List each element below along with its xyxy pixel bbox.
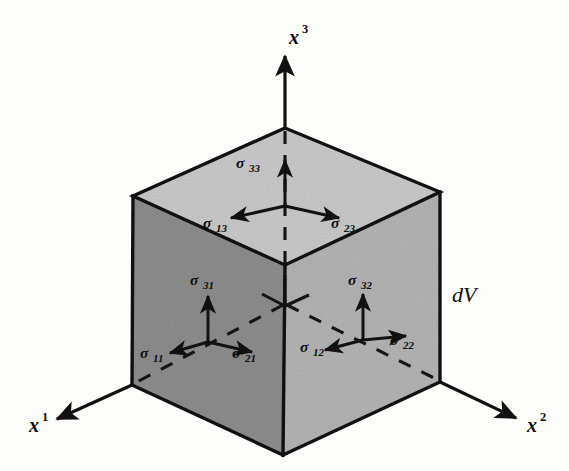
axis-x1-line (57, 385, 132, 419)
sigma-31-label: σ (190, 271, 199, 288)
sigma-11-label: σ (140, 344, 149, 361)
axis-x2-label: x (526, 414, 537, 436)
axis-x2-line (440, 382, 516, 418)
sigma-33-label: σ (236, 154, 245, 171)
volume-element-label: dV (452, 282, 479, 307)
axis-x3-label: x (288, 26, 299, 48)
sigma-32-subscript: 32 (360, 279, 373, 291)
axis-x1-label: x (28, 414, 39, 436)
stress-cube-figure: x 3 x 1 x 2 σ 33 σ 13 σ 23 (0, 0, 569, 471)
stress-cube-diagram: x 3 x 1 x 2 σ 33 σ 13 σ 23 (0, 0, 569, 471)
sigma-31-subscript: 31 (202, 279, 214, 291)
sigma-32-label: σ (348, 271, 357, 288)
sigma-33-subscript: 33 (248, 162, 261, 174)
axis-x2-exponent: 2 (540, 410, 546, 424)
sigma-21-subscript: 21 (244, 352, 256, 364)
sigma-23-label: σ (331, 214, 340, 231)
sigma-12-label: σ (300, 338, 309, 355)
sigma-22-subscript: 22 (402, 339, 415, 351)
sigma-12-subscript: 12 (313, 346, 325, 358)
sigma-22-label: σ (390, 331, 399, 348)
sigma-11-subscript: 11 (153, 352, 163, 364)
sigma-13-subscript: 13 (216, 222, 228, 234)
sigma-13-label: σ (203, 214, 212, 231)
edge-front-vertical (283, 265, 285, 455)
edge-left-vertical (132, 196, 133, 385)
axis-x1-exponent: 1 (42, 410, 48, 424)
sigma-23-subscript: 23 (343, 222, 356, 234)
axis-x3-exponent: 3 (302, 22, 308, 36)
sigma-21-label: σ (232, 344, 241, 361)
